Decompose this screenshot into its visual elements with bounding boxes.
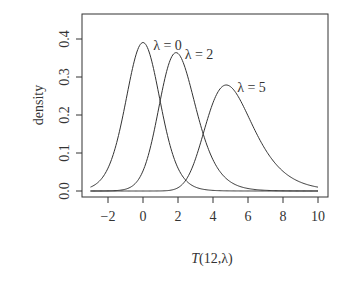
x-tick-label: 0 xyxy=(140,209,147,224)
x-tick-label: 6 xyxy=(245,209,252,224)
plot-frame xyxy=(82,14,328,197)
y-tick-label: 0.3 xyxy=(57,68,72,86)
x-tick-label: 10 xyxy=(311,209,325,224)
y-tick-label: 0.2 xyxy=(57,106,72,124)
x-tick-label: 2 xyxy=(175,209,182,224)
x-axis: −20246810 xyxy=(101,197,325,224)
x-tick-label: −2 xyxy=(101,209,116,224)
x-axis-label: T(12,λ) xyxy=(191,251,233,267)
curve-label: λ = 5 xyxy=(237,80,266,95)
x-tick-label: 4 xyxy=(210,209,217,224)
curve-labels: λ = 0λ = 2λ = 5 xyxy=(153,38,266,95)
density-curve xyxy=(91,53,319,191)
x-tick-label: 8 xyxy=(280,209,287,224)
chart: 0.00.10.20.30.4 −20246810 λ = 0λ = 2λ = … xyxy=(0,0,346,285)
y-axis-label: density xyxy=(31,85,46,125)
density-curves xyxy=(91,43,319,191)
y-tick-label: 0.0 xyxy=(57,182,72,200)
curve-label: λ = 2 xyxy=(185,47,214,62)
curve-label: λ = 0 xyxy=(153,38,182,53)
y-tick-label: 0.4 xyxy=(57,30,72,48)
y-tick-label: 0.1 xyxy=(57,144,72,162)
y-axis: 0.00.10.20.30.4 xyxy=(57,30,82,200)
density-curve xyxy=(91,43,319,191)
